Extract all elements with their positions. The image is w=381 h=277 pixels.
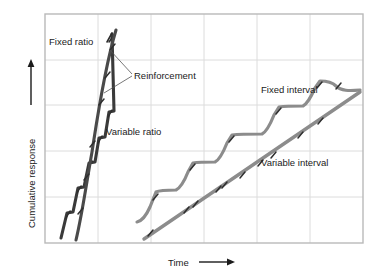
label-reinforcement: Reinforcement [134,70,196,81]
label-fixed-interval: Fixed interval [261,84,318,95]
y-axis-label: Cumulative response [26,139,37,228]
label-fixed-ratio: Fixed ratio [49,36,93,47]
label-variable-ratio: Variable ratio [106,126,161,137]
chart-figure: Fixed ratio Variable ratio Fixed interva… [0,0,381,277]
x-axis-label: Time [168,257,189,268]
x-axis-arrow [199,259,235,266]
label-variable-interval: Variable interval [261,157,328,168]
reinforcement-schedules-chart: Fixed ratio Variable ratio Fixed interva… [0,0,381,277]
y-axis-arrow [28,59,35,105]
